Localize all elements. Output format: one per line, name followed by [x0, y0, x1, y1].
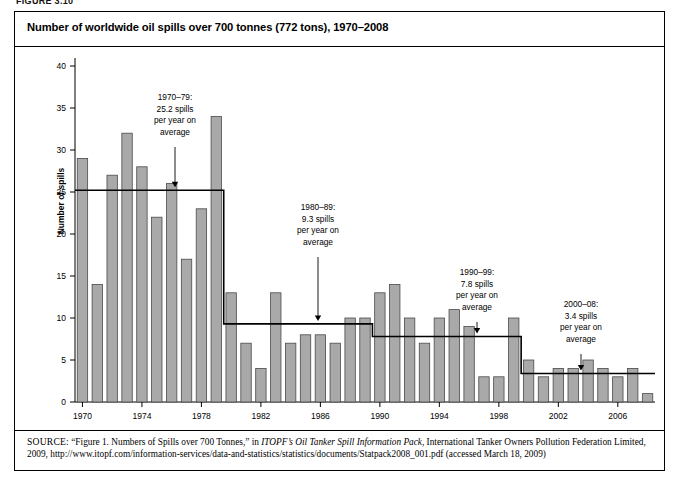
bar	[509, 318, 519, 402]
bar	[271, 293, 281, 402]
y-tick-label: 15	[57, 271, 67, 281]
anno-1980s: 1980–89:9.3 spillsper year onaverage	[297, 202, 339, 321]
source-italic-title: ITOPF’s Oil Tanker Spill Information Pac…	[261, 437, 422, 447]
annotation-line: average	[303, 237, 333, 247]
source-text-1: “Figure 1. Numbers of Spills over 700 To…	[69, 437, 261, 447]
y-tick-label: 10	[57, 313, 67, 323]
annotation-line: 9.3 spills	[302, 214, 334, 224]
x-tick-label: 1990	[370, 411, 389, 421]
y-tick-label: 30	[57, 145, 67, 155]
bar	[166, 184, 176, 402]
figure-page: FIGURE 3.10 Number of worldwide oil spil…	[0, 0, 679, 481]
bar	[285, 343, 295, 402]
bar	[523, 360, 533, 402]
x-tick-label: 1998	[489, 411, 508, 421]
source-prefix: SOURCE:	[27, 436, 69, 447]
y-tick-label: 20	[57, 229, 67, 239]
annotation-line: per year on	[297, 225, 339, 235]
bar	[300, 335, 310, 402]
plot-area: Number of spills 05101520253035401970197…	[15, 46, 664, 436]
annotation-line: 7.8 spills	[461, 279, 493, 289]
y-tick-label: 40	[57, 61, 67, 71]
figure-number-label: FIGURE 3.10	[16, 0, 73, 6]
bar-chart: 0510152025303540197019741978198219861990…	[15, 46, 664, 436]
annotation-line: 3.4 spills	[565, 311, 597, 321]
x-tick-label: 2002	[549, 411, 568, 421]
annotation-line: 25.2 spills	[157, 104, 194, 114]
bar	[92, 284, 102, 402]
bar	[449, 310, 459, 402]
bar	[390, 284, 400, 402]
source-divider	[15, 430, 664, 431]
bar	[330, 343, 340, 402]
bar	[241, 343, 251, 402]
annotation-arrow-icon	[315, 315, 321, 321]
annotation-arrow-icon	[474, 328, 480, 334]
bar	[494, 377, 504, 402]
bar	[583, 360, 593, 402]
bar	[211, 116, 221, 402]
annotation-line: per year on	[560, 322, 602, 332]
bar	[196, 209, 206, 402]
y-tick-label: 25	[57, 187, 67, 197]
x-tick-label: 1982	[251, 411, 270, 421]
y-tick-label: 5	[61, 355, 66, 365]
bar	[77, 158, 87, 402]
annotation-line: 1980–89:	[301, 202, 336, 212]
bar	[375, 293, 385, 402]
annotation-line: 2000–08:	[564, 299, 599, 309]
annotation-line: 1990–99:	[460, 267, 495, 277]
x-tick-label: 1970	[73, 411, 92, 421]
annotation-line: average	[160, 127, 190, 137]
bar	[419, 343, 429, 402]
bar	[613, 377, 623, 402]
x-tick-label: 1986	[311, 411, 330, 421]
bar	[464, 326, 474, 402]
bar	[345, 318, 355, 402]
anno-1990s: 1990–99:7.8 spillsper year onaverage	[456, 267, 498, 333]
anno-2000s: 2000–08:3.4 spillsper year onaverage	[560, 299, 602, 370]
bar	[479, 377, 489, 402]
bar	[226, 293, 236, 402]
figure-box: Number of worldwide oil spills over 700 …	[14, 11, 665, 471]
y-tick-label: 0	[61, 397, 66, 407]
bar	[152, 217, 162, 402]
annotation-line: per year on	[154, 115, 196, 125]
y-tick-label: 35	[57, 103, 67, 113]
x-tick-label: 2006	[608, 411, 627, 421]
annotation-line: per year on	[456, 290, 498, 300]
page-title: Number of worldwide oil spills over 700 …	[27, 21, 388, 33]
bar	[122, 133, 132, 402]
bar	[434, 318, 444, 402]
annotation-line: 1970–79:	[158, 92, 193, 102]
bar	[642, 394, 652, 402]
bar	[538, 377, 548, 402]
anno-1970s: 1970–79:25.2 spillsper year onaverage	[154, 92, 196, 187]
bar	[404, 318, 414, 402]
annotation-line: average	[462, 302, 492, 312]
x-tick-label: 1974	[132, 411, 151, 421]
bar	[137, 167, 147, 402]
bar	[181, 259, 191, 402]
annotation-line: average	[566, 334, 596, 344]
bar	[256, 368, 266, 402]
bar	[107, 175, 117, 402]
bar	[360, 318, 370, 402]
x-tick-label: 1978	[192, 411, 211, 421]
bar	[315, 335, 325, 402]
source-note: SOURCE: “Figure 1. Numbers of Spills ove…	[27, 436, 655, 460]
x-tick-label: 1994	[430, 411, 449, 421]
